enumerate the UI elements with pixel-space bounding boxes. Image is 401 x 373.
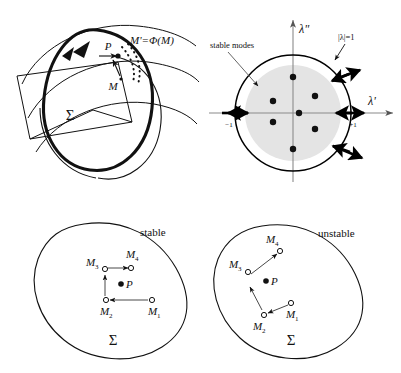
section-sigma-label: Σ: [66, 107, 75, 123]
iterate-sub-m3: 3: [95, 263, 99, 271]
eigenvalue-dot: [290, 74, 296, 80]
unstable-fixed-point-marker: [263, 278, 269, 284]
unstable-panel-title: unstable: [318, 227, 355, 239]
eigenvalue-dot: [290, 146, 296, 152]
point-m-marker: [119, 77, 122, 80]
iterate-marker-m1: [149, 297, 154, 302]
unit-circle-label: |λ|=1: [338, 32, 355, 42]
iterate-sub-m2: 2: [109, 312, 113, 320]
stable-panel-title-text: stable: [140, 226, 166, 238]
imag-axis-label: λ": [298, 22, 310, 36]
eigenvalue-dot: [270, 98, 276, 104]
iterate-sub-m2: 2: [262, 327, 266, 335]
iterate-marker-m1: [288, 300, 293, 305]
point-p-marker: [115, 53, 120, 58]
eigenvalue-dot: [270, 119, 276, 125]
stable-sigma-label: Σ: [109, 332, 118, 348]
stable-modes-label: stable modes: [210, 40, 254, 50]
tick-label-minus-one: −1: [225, 121, 233, 129]
unstable-fixed-point-label: P: [270, 275, 278, 287]
unstable-sigma-label: Σ: [287, 332, 296, 348]
tick-label-plus-one: +1: [349, 121, 357, 129]
stable-fixed-point-marker: [118, 281, 124, 287]
point-m-label: M: [107, 80, 118, 92]
eigenvalue-dot: [312, 126, 318, 132]
iterate-marker-m2: [261, 312, 266, 317]
iterate-marker-m3: [102, 266, 107, 271]
map-image-label: M'=Φ(M): [129, 34, 174, 47]
iterate-sub-m1: 1: [295, 315, 299, 323]
iterate-sub-m4: 4: [275, 240, 279, 248]
real-axis-label: λ': [367, 94, 376, 108]
iterate-marker-m4: [277, 248, 282, 253]
point-p-label: P: [104, 40, 112, 52]
eigenvalue-dot: [312, 93, 318, 99]
iterate-sub-m1: 1: [157, 312, 161, 320]
figure-background: [0, 0, 401, 373]
stable-fixed-point-label: P: [125, 278, 133, 290]
iterate-sub-m3: 3: [238, 265, 242, 273]
iterate-marker-m4: [128, 265, 133, 270]
iterate-sub-m4: 4: [135, 255, 139, 263]
eigenvalue-dot: [296, 110, 302, 116]
figure-root: P M M'=Φ(M) Σ λ' λ" |λ|=1 stable modes: [0, 0, 401, 373]
iterate-marker-m3: [245, 269, 250, 274]
iterate-marker-m2: [103, 297, 108, 302]
